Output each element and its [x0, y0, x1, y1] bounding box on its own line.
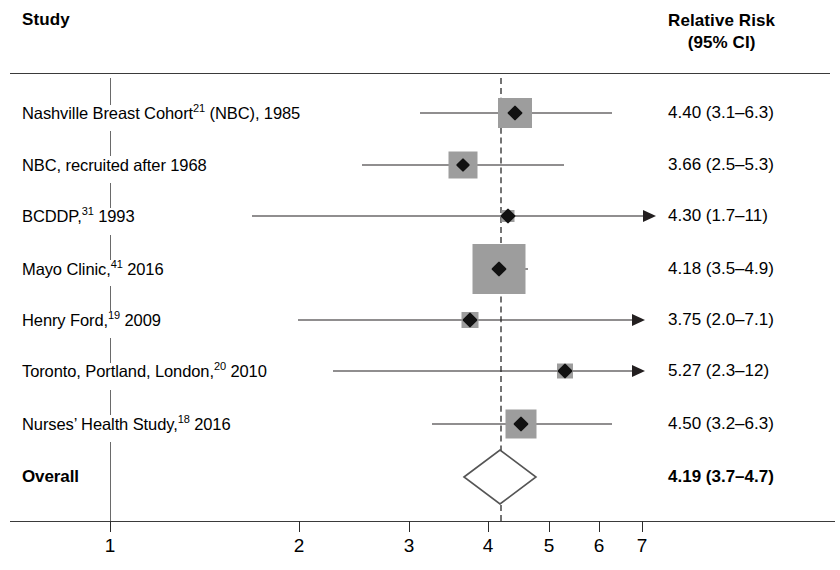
overall-summary-diamond [462, 448, 538, 506]
ci-truncation-arrow-icon [643, 210, 656, 222]
x-axis-tick-4 [488, 521, 489, 532]
study-label: NBC, recruited after 1968 [22, 156, 207, 175]
x-axis-tick-label-1: 1 [105, 535, 116, 557]
reference-line-segment [110, 78, 111, 105]
study-reference-number: 18 [178, 413, 190, 425]
column-header-rr-line2: (95% CI) [668, 32, 775, 54]
x-axis-tick-label-2: 2 [294, 535, 305, 557]
column-header-relative-risk: Relative Risk (95% CI) [668, 10, 775, 54]
study-label: Toronto, Portland, London,20 2010 [22, 362, 267, 381]
x-axis-tick-7 [642, 521, 643, 532]
study-name: Nurses’ Health Study, [22, 415, 178, 433]
reference-line-segment [110, 442, 111, 521]
x-axis-tick-label-4: 4 [483, 535, 494, 557]
reference-line-segment [110, 183, 111, 208]
study-name-suffix: 1993 [94, 207, 135, 225]
x-axis-tick-3 [409, 521, 410, 532]
forest-plot: Study Relative Risk (95% CI) Nashville B… [0, 0, 840, 570]
reference-line-segment [110, 235, 111, 260]
reference-line-segment [110, 390, 111, 415]
column-header-rr-line1: Relative Risk [668, 10, 775, 32]
relative-risk-value: 4.30 (1.7–11) [668, 206, 768, 226]
study-name-suffix: 2009 [120, 311, 161, 329]
study-reference-number: 19 [108, 309, 120, 321]
study-name: Toronto, Portland, London, [22, 362, 214, 380]
study-reference-number: 21 [193, 102, 205, 114]
x-axis-tick-2 [299, 521, 300, 532]
relative-risk-value: 4.40 (3.1–6.3) [668, 103, 774, 123]
study-name: BCDDP, [22, 207, 82, 225]
study-label: Henry Ford,19 2009 [22, 311, 161, 330]
study-name-suffix: 2010 [226, 362, 267, 380]
study-name: Henry Ford, [22, 311, 108, 329]
study-name-suffix: (NBC), 1985 [205, 104, 300, 122]
reference-line-segment [110, 131, 111, 156]
study-reference-number: 31 [82, 205, 94, 217]
reference-line-segment [110, 286, 111, 311]
x-axis-tick-label-3: 3 [404, 535, 415, 557]
study-label: Mayo Clinic,41 2016 [22, 260, 164, 279]
x-axis-tick-5 [549, 521, 550, 532]
reference-line-segment [110, 338, 111, 363]
ci-truncation-arrow-icon [632, 365, 645, 377]
ci-truncation-arrow-icon [632, 314, 645, 326]
relative-risk-value: 5.27 (2.3–12) [668, 361, 769, 381]
study-name-suffix: 2016 [123, 260, 164, 278]
x-axis-tick-1 [110, 521, 111, 532]
study-name: NBC, recruited after 1968 [22, 156, 207, 174]
header-rule-divider [10, 73, 830, 74]
study-label: BCDDP,31 1993 [22, 207, 134, 226]
relative-risk-value: 4.18 (3.5–4.9) [668, 259, 774, 279]
confidence-interval-line [333, 371, 632, 372]
x-axis-tick-label-6: 6 [594, 535, 605, 557]
study-name-suffix: 2016 [190, 415, 231, 433]
confidence-interval-line [252, 216, 643, 217]
column-header-study: Study [22, 10, 70, 30]
x-axis-tick-label-7: 7 [637, 535, 648, 557]
relative-risk-value: 3.75 (2.0–7.1) [668, 310, 774, 330]
overall-label: Overall [22, 467, 79, 487]
study-reference-number: 41 [111, 258, 123, 270]
relative-risk-value: 3.66 (2.5–5.3) [668, 155, 774, 175]
x-axis-tick-6 [599, 521, 600, 532]
x-axis-line [10, 521, 835, 522]
relative-risk-value: 4.50 (3.2–6.3) [668, 414, 774, 434]
study-label: Nashville Breast Cohort21 (NBC), 1985 [22, 104, 300, 123]
study-reference-number: 20 [214, 360, 226, 372]
overall-relative-risk-value: 4.19 (3.7–4.7) [668, 467, 774, 487]
study-name: Nashville Breast Cohort [22, 104, 193, 122]
study-name: Mayo Clinic, [22, 260, 111, 278]
study-label: Nurses’ Health Study,18 2016 [22, 415, 230, 434]
x-axis-tick-label-5: 5 [544, 535, 555, 557]
